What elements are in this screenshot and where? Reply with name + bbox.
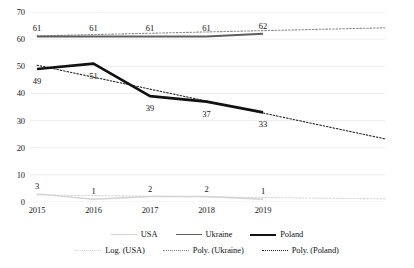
data-label: 61 — [89, 24, 97, 33]
legend-row-trendlines: Log. (USA)Poly. (Ukraine)Poly. (Poland) — [0, 242, 414, 258]
legend-item[interactable]: Poland — [250, 230, 303, 239]
plot-area — [30, 12, 385, 202]
data-label: 3 — [35, 182, 39, 191]
y-axis-tick-label: 70 — [17, 8, 25, 17]
legend-item-label: Poly. (Ukraine) — [193, 246, 244, 255]
legend-line-icon — [262, 246, 288, 255]
y-axis-tick-label: 20 — [17, 144, 25, 153]
y-axis-tick-label: 50 — [17, 62, 25, 71]
line-chart: 010203040506070 312216161616162495139373… — [0, 0, 414, 268]
x-axis-tick-label: 2015 — [29, 205, 46, 215]
data-label: 1 — [91, 187, 95, 196]
legend-line-icon — [250, 230, 276, 239]
data-label: 33 — [259, 120, 267, 129]
data-label: 1 — [261, 187, 265, 196]
chart-legend: USAUkrainePoland Log. (USA)Poly. (Ukrain… — [0, 226, 414, 266]
legend-item-label: Ukraine — [206, 230, 233, 239]
legend-item[interactable]: Log. (USA) — [75, 246, 145, 255]
data-label: 37 — [202, 110, 210, 119]
legend-line-icon — [75, 246, 101, 255]
y-axis: 010203040506070 — [0, 0, 28, 214]
x-axis-tick-label: 2016 — [85, 205, 102, 215]
y-axis-tick-label: 40 — [17, 89, 25, 98]
x-axis-tick-label: 2018 — [198, 205, 215, 215]
y-axis-tick-label: 30 — [17, 117, 25, 126]
legend-item[interactable]: Ukraine — [176, 230, 233, 239]
legend-line-icon — [163, 246, 189, 255]
legend-line-icon — [176, 230, 202, 239]
data-label: 2 — [148, 185, 152, 194]
y-axis-tick-label: 60 — [17, 35, 25, 44]
data-label: 51 — [89, 72, 97, 81]
data-label: 62 — [259, 22, 267, 31]
x-axis: 20152016201720182019 — [30, 205, 385, 221]
legend-item-label: USA — [141, 230, 158, 239]
x-axis-tick-label: 2017 — [142, 205, 159, 215]
data-label: 61 — [146, 24, 154, 33]
y-axis-tick-label: 10 — [17, 171, 25, 180]
legend-item-label: Poland — [280, 230, 303, 239]
data-label: 49 — [33, 77, 41, 86]
data-label: 61 — [33, 24, 41, 33]
legend-item-label: Poly. (Poland) — [292, 246, 339, 255]
legend-row-series: USAUkrainePoland — [0, 226, 414, 242]
legend-line-icon — [111, 230, 137, 239]
x-axis-tick-label: 2019 — [255, 205, 272, 215]
series-layer — [30, 12, 385, 202]
legend-item[interactable]: Poly. (Ukraine) — [163, 246, 244, 255]
legend-item[interactable]: USA — [111, 230, 158, 239]
y-axis-tick-label: 0 — [21, 198, 25, 207]
legend-item-label: Log. (USA) — [105, 246, 145, 255]
data-label: 61 — [202, 24, 210, 33]
data-label: 2 — [204, 185, 208, 194]
legend-item[interactable]: Poly. (Poland) — [262, 246, 339, 255]
data-label: 39 — [146, 104, 154, 113]
